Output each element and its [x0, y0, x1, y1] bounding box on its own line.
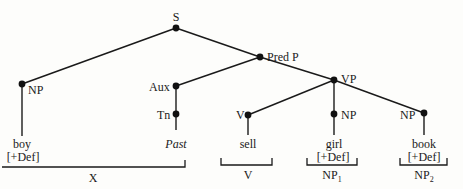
node-label-tn: Tn	[157, 109, 170, 121]
leaf-boy-feature: [+Def]	[7, 151, 40, 163]
bracket-label-np2: NP2	[414, 169, 433, 186]
leaf-book: book	[412, 138, 436, 150]
leaf-boy: boy	[13, 138, 31, 150]
node-label-np-book: NP	[400, 109, 415, 121]
bracket-v	[221, 158, 272, 165]
node-label-s: S	[173, 11, 180, 23]
bracket-label-np1-sub: 1	[338, 175, 342, 184]
bracket-label-np2-sub: 2	[430, 175, 434, 184]
leaf-sell: sell	[240, 138, 257, 150]
bracket-label-np2-base: NP	[414, 168, 429, 182]
bracket-label-x: X	[89, 172, 98, 184]
tree-nodes	[19, 25, 428, 119]
leaf-book-feature: [+Def]	[408, 151, 441, 163]
node-dot-np-book	[421, 110, 428, 117]
leaf-girl-feature: [+Def]	[317, 151, 350, 163]
leaf-girl: girl	[326, 138, 343, 150]
node-label-predp: Pred P	[267, 51, 299, 63]
node-label-vp: VP	[341, 73, 356, 85]
node-label-v: V	[236, 109, 245, 121]
leaf-past: Past	[165, 138, 186, 150]
tree-edges	[22, 28, 424, 136]
node-label-aux: Aux	[149, 81, 170, 93]
node-dot-np-subj	[19, 81, 26, 88]
bracket-label-np1-base: NP	[322, 168, 337, 182]
edge-s-predp	[176, 28, 260, 57]
node-dot-predp	[257, 54, 264, 61]
edge-vp-v	[248, 80, 334, 115]
tree-diagram	[0, 0, 463, 189]
brackets	[2, 158, 447, 167]
bracket-label-np1: NP1	[322, 169, 341, 186]
edge-predp-aux	[176, 57, 260, 86]
node-dot-s	[173, 25, 180, 32]
node-dot-v	[245, 112, 252, 119]
node-dot-tn	[173, 111, 180, 118]
edge-s-np	[22, 28, 176, 84]
bracket-label-v: V	[244, 169, 253, 181]
node-dot-vp	[331, 77, 338, 84]
node-dot-aux	[173, 83, 180, 90]
node-dot-np-girl	[331, 111, 338, 118]
node-label-np-girl: NP	[341, 109, 356, 121]
node-label-np-subj: NP	[28, 84, 43, 96]
